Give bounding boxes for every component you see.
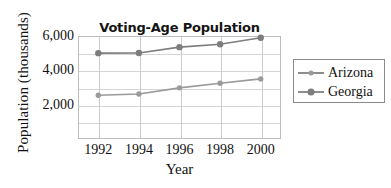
- chart-title: Voting-Age Population: [78, 20, 281, 35]
- y-axis-tick-label: 2,000: [26, 98, 74, 112]
- legend-label-georgia: Georgia: [324, 84, 373, 100]
- data-point-arizona: [177, 85, 182, 90]
- x-axis-tick-label: 2000: [236, 142, 286, 158]
- legend-label-arizona: Arizona: [324, 65, 373, 81]
- data-point-georgia: [95, 50, 101, 56]
- chart-legend: Arizona Georgia: [293, 59, 385, 103]
- x-axis-tick-labels: 19921994199619982000: [78, 142, 281, 162]
- data-point-arizona: [136, 91, 141, 96]
- legend-marker-arizona-icon: [298, 66, 324, 80]
- legend-item-georgia[interactable]: Georgia: [298, 82, 380, 101]
- data-point-georgia: [217, 41, 223, 47]
- data-point-georgia: [136, 50, 142, 56]
- legend-marker-georgia-icon: [298, 85, 324, 99]
- series-layer: [78, 36, 281, 139]
- data-point-arizona: [217, 81, 222, 86]
- y-axis-tick-label: 6,000: [26, 29, 74, 43]
- data-point-arizona: [258, 76, 263, 81]
- data-point-georgia: [176, 44, 182, 50]
- data-point-arizona: [96, 93, 101, 98]
- data-point-georgia: [258, 35, 264, 41]
- legend-item-arizona[interactable]: Arizona: [298, 63, 380, 82]
- chart-figure: Population (thousands) Voting-Age Popula…: [0, 0, 391, 188]
- y-axis-tick-labels: 2,0004,0006,000: [22, 36, 74, 139]
- y-axis-tick-label: 4,000: [26, 63, 74, 77]
- x-axis-title: Year: [78, 161, 281, 178]
